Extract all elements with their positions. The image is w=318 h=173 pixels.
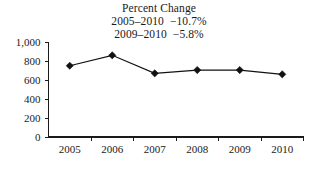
x-tick-label: 2010 (271, 143, 294, 155)
series-line-value (70, 55, 283, 74)
y-tick-label: 400 (24, 93, 41, 105)
y-axis-tick-marks (45, 42, 49, 137)
y-tick-label: 1,000 (16, 36, 41, 48)
y-tick-label: 200 (24, 112, 41, 124)
x-tick-label: 2008 (186, 143, 209, 155)
x-axis-tick-labels: 200520062007200820092010 (59, 143, 294, 155)
data-point-marker (151, 70, 158, 77)
data-point-marker (194, 66, 201, 73)
data-point-marker (109, 52, 116, 59)
x-tick-label: 2006 (101, 143, 124, 155)
series-markers-value (66, 52, 286, 78)
y-tick-label: 0 (35, 131, 41, 143)
y-axis-tick-labels: 02004006008001,000 (16, 36, 41, 143)
x-tick-label: 2009 (229, 143, 252, 155)
data-point-marker (236, 66, 243, 73)
y-tick-label: 600 (24, 74, 41, 86)
x-tick-label: 2007 (144, 143, 167, 155)
y-tick-label: 800 (24, 55, 41, 67)
data-point-marker (279, 71, 286, 78)
x-axis-tick-marks (91, 137, 304, 141)
chart-plot-area: 02004006008001,000 200520062007200820092… (0, 0, 318, 173)
x-tick-label: 2005 (59, 143, 82, 155)
chart-figure: Percent Change 2005–2010 −10.7% 2009–201… (0, 0, 318, 173)
data-point-marker (66, 62, 73, 69)
